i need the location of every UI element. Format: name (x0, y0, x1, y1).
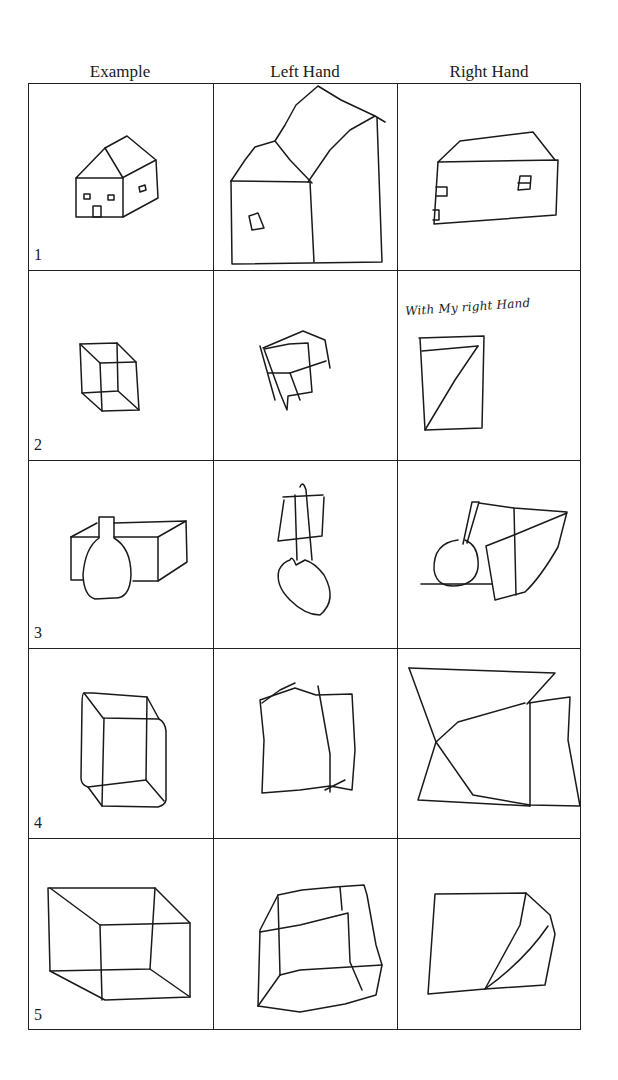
right-hand-folded-shape-drawing (0, 0, 618, 1080)
